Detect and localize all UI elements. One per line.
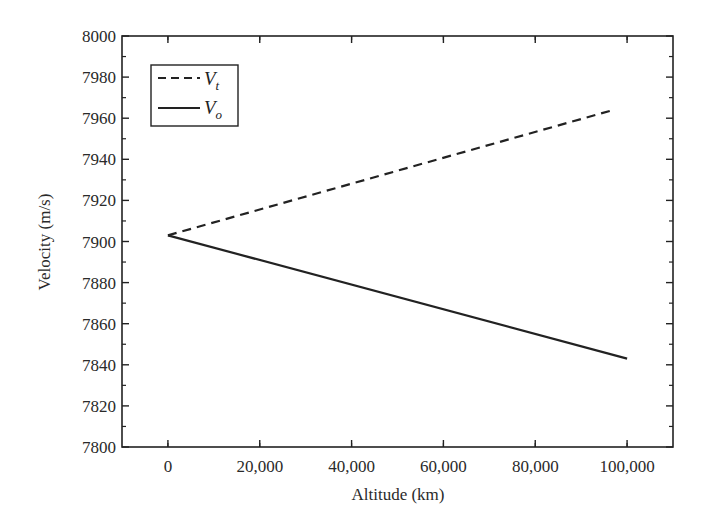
series-line-v-t (168, 110, 613, 235)
y-tick-label: 7980 (82, 68, 116, 87)
y-tick-label: 7960 (82, 109, 116, 128)
legend: Vt Vo (151, 65, 238, 126)
series-layer (168, 110, 627, 359)
velocity-altitude-chart: 020,00040,00060,00080,000100,000 7800782… (0, 0, 712, 530)
x-tick-label: 0 (164, 457, 173, 476)
x-tick-label: 100,000 (599, 457, 654, 476)
y-tick-label: 7800 (82, 438, 116, 457)
y-tick-label: 7840 (82, 356, 116, 375)
x-axis-title: Altitude (km) (351, 485, 444, 504)
x-tick-label: 20,000 (236, 457, 283, 476)
y-axis-title: Velocity (m/s) (35, 194, 54, 291)
y-tick-label: 7860 (82, 315, 116, 334)
y-tick-label: 7920 (82, 191, 116, 210)
legend-box (151, 65, 238, 126)
y-tick-label: 7940 (82, 150, 116, 169)
y-tick-label: 7900 (82, 233, 116, 252)
y-tick-label: 7880 (82, 274, 116, 293)
y-tick-label: 8000 (82, 27, 116, 46)
x-tick-label: 60,000 (420, 457, 467, 476)
series-line-v-o (168, 235, 627, 358)
y-tick-label: 7820 (82, 397, 116, 416)
x-tick-label: 40,000 (328, 457, 375, 476)
x-tick-label: 80,000 (512, 457, 559, 476)
